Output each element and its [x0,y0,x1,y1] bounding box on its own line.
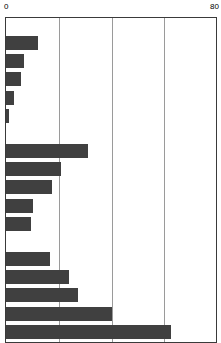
bar [6,36,38,50]
plot-area [5,17,217,343]
bar [6,180,52,194]
bar [6,325,171,339]
bar [6,270,69,284]
bar [6,72,21,86]
bar [6,54,24,68]
bar [6,252,50,266]
bar [6,91,14,105]
bar [6,199,33,213]
bars-layer [6,18,216,342]
x-axis-tick-label-min: 0 [4,2,8,12]
x-axis-tick-labels: 0 80 [0,0,221,16]
bar [6,109,9,123]
x-axis-tick-label-max: 80 [210,2,219,12]
bar-chart: 0 80 [0,0,221,343]
bar [6,162,61,176]
bar [6,217,31,231]
bar [6,144,88,158]
bar [6,307,112,321]
bar [6,288,78,302]
